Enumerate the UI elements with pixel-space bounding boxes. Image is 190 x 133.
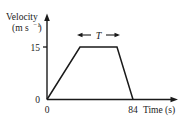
y-axis-arrowhead	[44, 14, 50, 22]
x-axis	[47, 97, 178, 103]
y-axis-unit-tail: )	[39, 23, 42, 34]
y-axis-unit-main: (m s	[12, 23, 29, 34]
y-tick-label-15: 15	[31, 43, 41, 53]
y-tick-label-0: 0	[35, 95, 40, 105]
duration-left-arrowhead	[77, 33, 83, 38]
chart-canvas: T Velocity (m s −1 ) 15 0 0 84 Time (s)	[0, 0, 190, 133]
y-axis-label-line2: (m s −1 )	[12, 21, 42, 34]
duration-right-arrowhead	[115, 33, 121, 38]
duration-label: T	[96, 30, 103, 41]
velocity-time-graph-figure: T Velocity (m s −1 ) 15 0 0 84 Time (s)	[0, 0, 190, 133]
x-tick-label-0: 0	[45, 105, 50, 115]
y-axis	[44, 14, 50, 100]
duration-span-annotation: T	[77, 30, 120, 41]
x-axis-label: Time (s)	[143, 105, 175, 116]
velocity-trace	[47, 47, 133, 100]
x-tick-label-84: 84	[128, 105, 138, 115]
x-axis-arrowhead	[171, 97, 179, 103]
